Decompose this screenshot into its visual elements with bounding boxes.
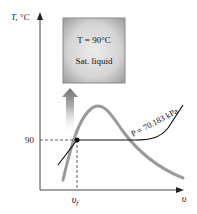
state-box: T = 90°C Sat. liquid xyxy=(63,18,125,83)
state-temperature-text: T = 90°C xyxy=(77,35,111,45)
y-axis-label: T, °C xyxy=(11,12,30,22)
up-arrow-icon xyxy=(62,88,78,134)
x-tick-label-vf: υf xyxy=(72,194,80,207)
state-phase-text: Sat. liquid xyxy=(75,56,113,66)
y-tick-label-90: 90 xyxy=(25,135,35,145)
t-v-diagram: T = 90°C Sat. liquid T, °C 90 υf υ P = 7… xyxy=(0,0,197,214)
x-axis-label: υ xyxy=(182,193,187,204)
y-axis-arrow-icon xyxy=(37,12,43,20)
state-point xyxy=(75,138,80,143)
